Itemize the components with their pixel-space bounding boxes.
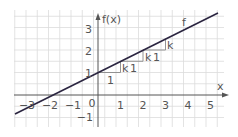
svg-text:1: 1 (85, 67, 92, 80)
svg-text:4: 4 (185, 99, 192, 112)
svg-text:2: 2 (140, 99, 147, 112)
x-tick-labels: −3 −2 −1 0 1 2 3 4 5 (19, 97, 214, 112)
run-label-2: 1 (130, 62, 137, 75)
rise-label-3: k (167, 39, 174, 52)
run-label-1: 1 (107, 74, 114, 87)
svg-text:1: 1 (117, 99, 124, 112)
function-graph: f f(x) x 1 k 1 k 1 k −3 −2 −1 0 1 2 3 4 … (0, 0, 238, 137)
run-label-3: 1 (153, 51, 160, 64)
svg-text:2: 2 (85, 45, 92, 58)
svg-text:0: 0 (89, 97, 96, 110)
svg-text:3: 3 (85, 23, 92, 36)
x-axis-arrow-icon (222, 93, 229, 98)
y-axis-label: f(x) (102, 13, 121, 26)
svg-text:3: 3 (162, 99, 169, 112)
svg-text:5: 5 (207, 99, 214, 112)
svg-text:−1: −1 (77, 111, 93, 124)
svg-text:−3: −3 (19, 99, 35, 112)
function-label: f (182, 16, 187, 29)
rise-label-2: k (145, 51, 152, 64)
rise-label-1: k (122, 62, 129, 75)
x-axis-label: x (217, 80, 224, 93)
svg-text:−2: −2 (42, 99, 58, 112)
